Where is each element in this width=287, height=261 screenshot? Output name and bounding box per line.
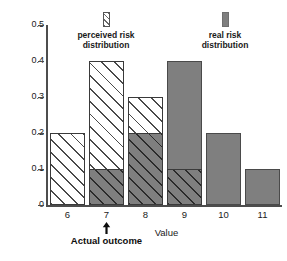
x-tick-label-11: 11 xyxy=(243,209,283,220)
y-tick-label-0.3: 0.3 xyxy=(8,91,44,101)
y-tick-mark xyxy=(38,25,44,26)
x-axis-tick-labels: 67891011 xyxy=(48,209,282,223)
bar-overlap-8 xyxy=(128,133,163,205)
bar-real-10 xyxy=(206,133,241,205)
bar-overlap-7 xyxy=(89,169,124,205)
y-tick-mark xyxy=(38,205,44,206)
bar-overlap-9 xyxy=(167,169,202,205)
y-tick-mark xyxy=(38,97,44,98)
x-tick-label-8: 8 xyxy=(126,209,166,220)
y-tick-label-0.1: 0.1 xyxy=(8,163,44,173)
y-tick-label-0.4: 0.4 xyxy=(8,55,44,65)
plot-area xyxy=(48,25,282,205)
x-tick-label-9: 9 xyxy=(165,209,205,220)
y-tick-mark xyxy=(38,61,44,62)
y-tick-label-0.2: 0.2 xyxy=(8,127,44,137)
bar-real-11 xyxy=(245,169,280,205)
x-axis-line xyxy=(46,205,282,207)
y-tick-label-0.5: 0.5 xyxy=(8,19,44,29)
x-tick-label-10: 10 xyxy=(204,209,244,220)
y-axis-line xyxy=(46,25,48,206)
x-tick-label-6: 6 xyxy=(48,209,88,220)
up-arrow-icon xyxy=(102,222,111,234)
y-tick-label-0: 0 xyxy=(8,199,44,209)
y-tick-mark xyxy=(38,133,44,134)
risk-distribution-bar-chart: perceived risk distribution real risk di… xyxy=(0,0,287,261)
actual-outcome-label: Actual outcome xyxy=(0,235,213,246)
x-tick-label-7: 7 xyxy=(87,209,127,220)
bar-perceived-6 xyxy=(50,133,85,205)
y-axis-tick-labels: 00.10.20.30.40.5 xyxy=(0,25,44,206)
y-tick-mark xyxy=(38,169,44,170)
